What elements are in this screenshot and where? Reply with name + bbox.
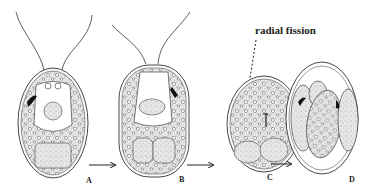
stage-label-d: D — [349, 175, 355, 184]
flagellum-icon — [62, 15, 92, 70]
annotation-leader-line — [250, 40, 256, 78]
cell-d — [286, 62, 358, 174]
flagellum-icon — [16, 12, 44, 70]
radial-fission-label: radial fission — [255, 24, 316, 36]
diagram-drawing — [0, 0, 375, 192]
flagellum-icon — [158, 12, 190, 64]
stage-label-a: A — [86, 176, 92, 185]
stage-label-c: C — [267, 173, 273, 182]
cell-a — [16, 12, 92, 178]
cell-b — [112, 12, 190, 177]
life-cycle-diagram: radial fission A B C D — [0, 0, 375, 192]
stage-label-b: B — [179, 175, 184, 184]
flagellum-icon — [112, 25, 146, 64]
